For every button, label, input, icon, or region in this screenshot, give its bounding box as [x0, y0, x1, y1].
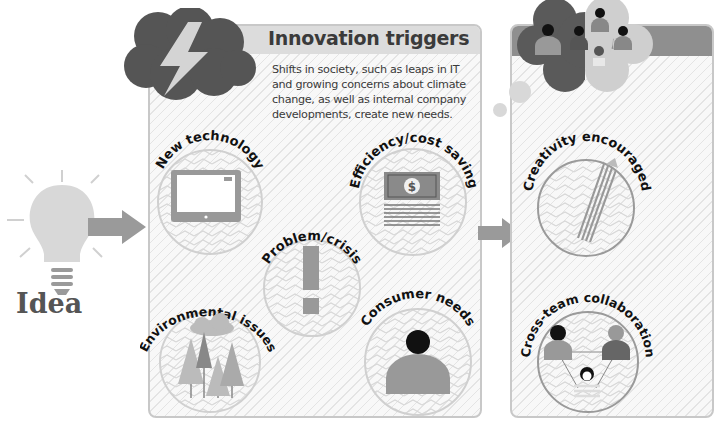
- idea-label: Idea: [16, 288, 82, 319]
- innovation-triggers-description: Shifts in society, such as leaps in IT a…: [272, 62, 466, 122]
- tablet-icon: [171, 170, 241, 222]
- money-icon: $: [384, 172, 440, 225]
- innovation-triggers-title: Innovation triggers: [268, 27, 469, 49]
- exclamation-icon: [303, 246, 319, 314]
- lightning-cloud-icon: [118, 8, 278, 108]
- svg-text:$: $: [408, 180, 416, 194]
- team-thought-cloud-icon: [515, 0, 655, 95]
- trigger-consumer-needs: Consumer needs: [350, 290, 490, 437]
- stage-cross-team-collaboration: Cross-team collaboration: [520, 290, 681, 437]
- stage-creativity-encouraged: Creativity encouraged: [520, 120, 681, 270]
- trigger-environmental-issues: Environmental issues: [140, 290, 290, 437]
